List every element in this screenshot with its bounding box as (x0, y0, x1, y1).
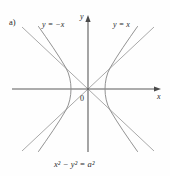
equation-caption: x² − y² = a² (54, 160, 95, 169)
asymptote-left-label: y = −x (42, 21, 65, 29)
asymptote-right-label: y = x (113, 21, 130, 29)
panel-label: a) (9, 18, 16, 27)
origin-label: 0 (80, 95, 84, 103)
hyperbola-figure (0, 0, 170, 176)
y-axis-label: y (80, 13, 84, 21)
equation-text: x² − y² = a² (54, 159, 95, 169)
figure-background (0, 0, 170, 176)
x-axis-label: x (157, 93, 161, 101)
